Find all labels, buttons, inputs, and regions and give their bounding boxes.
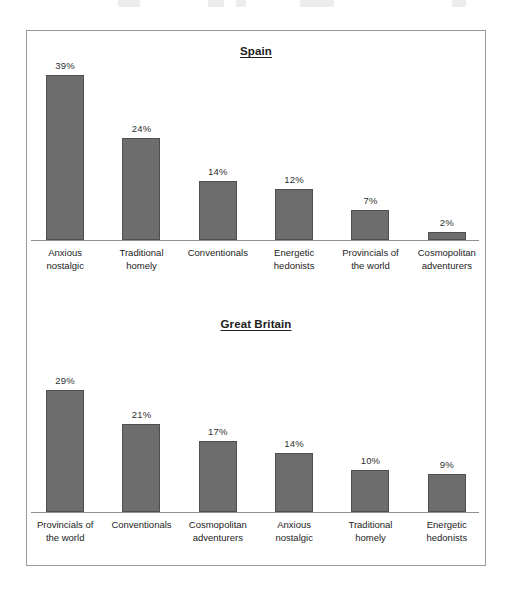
bar-slot[interactable]: 39% [27, 60, 103, 240]
bar-value-label: 29% [27, 375, 103, 386]
bar-slot[interactable]: 7% [332, 60, 408, 240]
chart-title-great-britain: Great Britain [27, 318, 485, 330]
bar-value-label: 12% [256, 174, 332, 185]
bar-slot[interactable]: 9% [409, 334, 485, 512]
bar-rect [46, 75, 84, 240]
x-axis-tick-label: Provincials ofthe world [332, 247, 408, 272]
figure-frame: Spain 39% 24% 14% 12% [26, 30, 486, 566]
x-axis-tick-label: Anxiousnostalgic [27, 247, 103, 272]
bar-slot[interactable]: 10% [332, 334, 408, 512]
bar-rect [46, 390, 84, 512]
x-axis-tick-label: Cosmopolitanadventurers [409, 247, 485, 272]
x-axis-tick-label: Cosmopolitanadventurers [180, 519, 256, 544]
x-axis-labels-spain: Anxiousnostalgic Traditionalhomely Conve… [27, 247, 485, 272]
x-axis-tick-label: Energetichedonists [409, 519, 485, 544]
x-axis-line [31, 512, 479, 513]
x-axis-tick-label: Conventionals [103, 519, 179, 544]
bar-value-label: 2% [409, 217, 485, 228]
bar-value-label: 17% [180, 426, 256, 437]
bar-rect [275, 453, 313, 512]
bar-slot[interactable]: 2% [409, 60, 485, 240]
bar-slot[interactable]: 14% [180, 60, 256, 240]
bar-rect [351, 210, 389, 240]
bar-slot[interactable]: 29% [27, 334, 103, 512]
bar-rect [428, 232, 466, 240]
scan-artifact [0, 0, 507, 14]
x-axis-line [31, 240, 479, 241]
bar-value-label: 14% [256, 438, 332, 449]
plot-area-spain: 39% 24% 14% 12% 7% [27, 61, 485, 241]
x-axis-tick-label: Provincials ofthe world [27, 519, 103, 544]
bar-rect [122, 138, 160, 240]
bar-value-label: 9% [409, 459, 485, 470]
bar-rect [199, 441, 237, 512]
bar-rect [199, 181, 237, 240]
bar-slot[interactable]: 17% [180, 334, 256, 512]
x-axis-tick-label: Anxiousnostalgic [256, 519, 332, 544]
bar-slot[interactable]: 14% [256, 334, 332, 512]
bar-slot[interactable]: 21% [103, 334, 179, 512]
x-axis-tick-label: Traditionalhomely [332, 519, 408, 544]
x-axis-tick-label: Traditionalhomely [103, 247, 179, 272]
chart-title-spain: Spain [27, 45, 485, 57]
bar-slot[interactable]: 12% [256, 60, 332, 240]
bar-value-label: 7% [332, 195, 408, 206]
bar-rect [428, 474, 466, 512]
x-axis-tick-label: Energetichedonists [256, 247, 332, 272]
bar-group-great-britain: 29% 21% 17% 14% 10% [27, 334, 485, 512]
plot-area-great-britain: 29% 21% 17% 14% 10% [27, 335, 485, 513]
chart-panel-spain: Spain 39% 24% 14% 12% [27, 31, 485, 299]
x-axis-labels-great-britain: Provincials ofthe world Conventionals Co… [27, 519, 485, 544]
bar-value-label: 39% [27, 60, 103, 71]
x-axis-tick-label: Conventionals [180, 247, 256, 272]
bar-value-label: 10% [332, 455, 408, 466]
bar-slot[interactable]: 24% [103, 60, 179, 240]
bar-rect [275, 189, 313, 240]
bar-value-label: 24% [103, 123, 179, 134]
bar-value-label: 21% [103, 409, 179, 420]
bar-group-spain: 39% 24% 14% 12% 7% [27, 60, 485, 240]
chart-panel-great-britain: Great Britain 29% 21% 17% 14% [27, 299, 485, 566]
bar-rect [122, 424, 160, 512]
bar-rect [351, 470, 389, 512]
bar-value-label: 14% [180, 166, 256, 177]
